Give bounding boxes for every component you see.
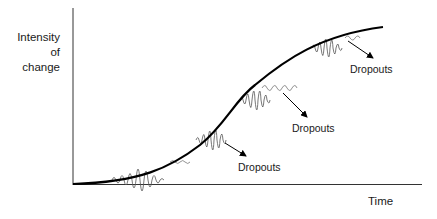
arrow-dropouts-3 [348, 41, 373, 58]
dropout-squiggle-3 [262, 86, 297, 91]
arrow-dropouts-1 [225, 143, 246, 156]
dropout-squiggle-4 [345, 36, 360, 40]
oscillation-burst-2 [196, 130, 226, 150]
s-curve-line [73, 27, 383, 184]
dropouts-label-3: Dropouts [350, 63, 393, 75]
dropouts-label-2: Dropouts [292, 122, 335, 134]
dropouts-label-1: Dropouts [238, 161, 281, 173]
arrow-dropouts-2 [283, 93, 307, 117]
s-curve-diagram [0, 0, 437, 219]
x-axis-label: Time [368, 195, 393, 207]
